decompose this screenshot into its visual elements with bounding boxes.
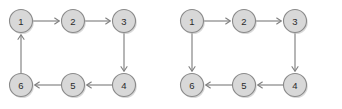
node-circle[interactable]	[113, 10, 136, 33]
node-circle[interactable]	[113, 74, 136, 97]
graph-node-2[interactable]: 2	[62, 10, 86, 35]
node-circle[interactable]	[10, 74, 33, 97]
graph-node-6[interactable]: 6	[181, 74, 205, 99]
left-directed-cycle: 123456	[0, 0, 171, 109]
node-circle[interactable]	[284, 74, 307, 97]
edge-2-to-3	[256, 18, 281, 24]
node-layer: 123456	[181, 10, 308, 99]
graph-node-3[interactable]: 3	[284, 10, 308, 35]
graph-node-3[interactable]: 3	[113, 10, 137, 35]
graph-node-6[interactable]: 6	[10, 74, 34, 99]
node-circle[interactable]	[233, 74, 256, 97]
edge-5-to-6	[206, 82, 232, 88]
node-circle[interactable]	[10, 10, 33, 33]
edge-1-to-2	[33, 18, 59, 24]
edge-4-to-5	[87, 82, 112, 88]
graph-node-4[interactable]: 4	[284, 74, 308, 99]
node-circle[interactable]	[284, 10, 307, 33]
node-layer: 123456	[10, 10, 137, 99]
right-directed-graph: 123456	[171, 0, 342, 109]
graph-node-5[interactable]: 5	[62, 74, 86, 99]
edge-1-to-2	[204, 18, 230, 24]
node-circle[interactable]	[181, 74, 204, 97]
edge-4-to-5	[258, 82, 283, 88]
edge-3-to-4	[121, 33, 127, 71]
edge-5-to-6	[35, 82, 61, 88]
node-circle[interactable]	[181, 10, 204, 33]
edge-2-to-3	[85, 18, 110, 24]
graph-node-5[interactable]: 5	[233, 74, 257, 99]
figure-root: 123456123456	[0, 0, 342, 109]
edge-3-to-4	[292, 33, 298, 71]
graph-node-2[interactable]: 2	[233, 10, 257, 35]
graph-node-1[interactable]: 1	[10, 10, 34, 35]
graph-canvas: 123456	[0, 0, 171, 109]
node-circle[interactable]	[62, 74, 85, 97]
node-circle[interactable]	[62, 10, 85, 33]
graph-node-4[interactable]: 4	[113, 74, 137, 99]
edge-1-to-6	[189, 33, 195, 71]
graph-node-1[interactable]: 1	[181, 10, 205, 35]
node-circle[interactable]	[233, 10, 256, 33]
graph-canvas: 123456	[171, 0, 342, 109]
edge-6-to-1	[18, 35, 24, 73]
